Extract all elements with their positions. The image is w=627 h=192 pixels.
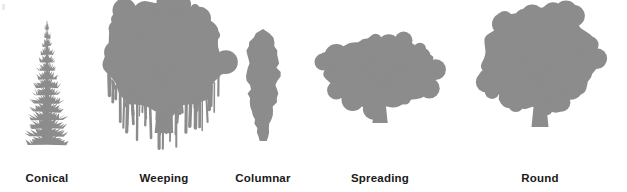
tree-item-conical: Conical (8, 0, 86, 192)
weeping-tree-icon (94, 1, 234, 157)
corner-artifact (2, 4, 5, 10)
tree-label-weeping: Weeping (94, 172, 234, 184)
conical-tree-icon (8, 21, 86, 157)
tree-item-spreading: Spreading (314, 0, 446, 192)
tree-label-conical: Conical (8, 172, 86, 184)
spreading-tree-icon (314, 31, 446, 157)
round-tree-icon (472, 9, 608, 157)
tree-item-weeping: Weeping (94, 0, 234, 192)
tree-label-spreading: Spreading (314, 172, 446, 184)
tree-label-columnar: Columnar (224, 172, 302, 184)
tree-item-round: Round (472, 0, 608, 192)
columnar-tree-icon (224, 29, 302, 157)
tree-label-round: Round (472, 172, 608, 184)
tree-shapes-figure: ConicalWeepingColumnarSpreadingRound (0, 0, 627, 192)
tree-item-columnar: Columnar (224, 0, 302, 192)
